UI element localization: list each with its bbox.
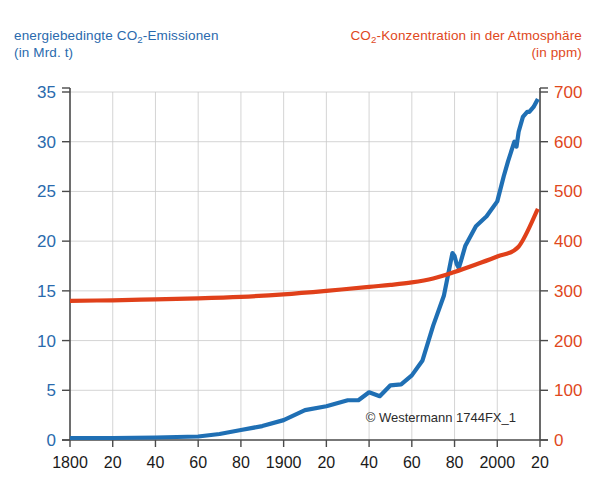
y-tick-label-right: 300 [554,282,582,301]
x-tick-label: 60 [189,454,207,471]
chart-figure: energiebedingte CO2-Emissionen (in Mrd. … [0,0,592,495]
x-tick-label: 40 [147,454,165,471]
right-axis-title: CO2-Konzentration in der Atmosphäre (in … [350,28,582,61]
left-axis-title-line1: energiebedingte CO2-Emissionen [14,28,219,45]
x-tick-label: 2000 [479,454,515,471]
copyright-credit: © Westermann 1744FX_1 [366,410,516,425]
y-tick-label-left: 20 [37,232,56,251]
left-axis-title: energiebedingte CO2-Emissionen (in Mrd. … [14,28,219,61]
tick-marks [62,92,548,447]
y-tick-label-right: 700 [554,83,582,102]
x-tick-label: 80 [446,454,464,471]
y-tick-label-left: 15 [37,282,56,301]
y-tick-label-right: 400 [554,232,582,251]
y-tick-label-right: 200 [554,332,582,351]
data-series [70,99,538,438]
x-tick-label: 20 [531,454,549,471]
y-tick-label-left: 30 [37,133,56,152]
right-axis-title-line1: CO2-Konzentration in der Atmosphäre [350,28,582,45]
y-tick-label-left: 35 [37,83,56,102]
y-tick-label-right: 0 [554,431,563,450]
x-tick-label: 40 [360,454,378,471]
x-tick-label: 20 [104,454,122,471]
y-tick-label-right: 600 [554,133,582,152]
y-tick-label-right: 500 [554,182,582,201]
y-tick-label-right: 100 [554,381,582,400]
x-tick-label: 80 [232,454,250,471]
y-tick-label-left: 5 [47,381,56,400]
series-line-co2-concentration [70,209,538,301]
y-tick-label-left: 25 [37,182,56,201]
subscript-two-right: 2 [371,34,377,45]
x-tick-label: 1900 [266,454,302,471]
x-tick-label: 60 [403,454,421,471]
right-axis-title-line2: (in ppm) [350,45,582,61]
y-tick-label-left: 0 [47,431,56,450]
subscript-two-left: 2 [137,34,143,45]
plot-area: 1800204060801900204060802000200510152025… [0,0,592,495]
x-tick-label: 1800 [52,454,88,471]
y-tick-label-left: 10 [37,332,56,351]
x-tick-label: 20 [317,454,335,471]
left-axis-title-line2: (in Mrd. t) [14,45,219,61]
